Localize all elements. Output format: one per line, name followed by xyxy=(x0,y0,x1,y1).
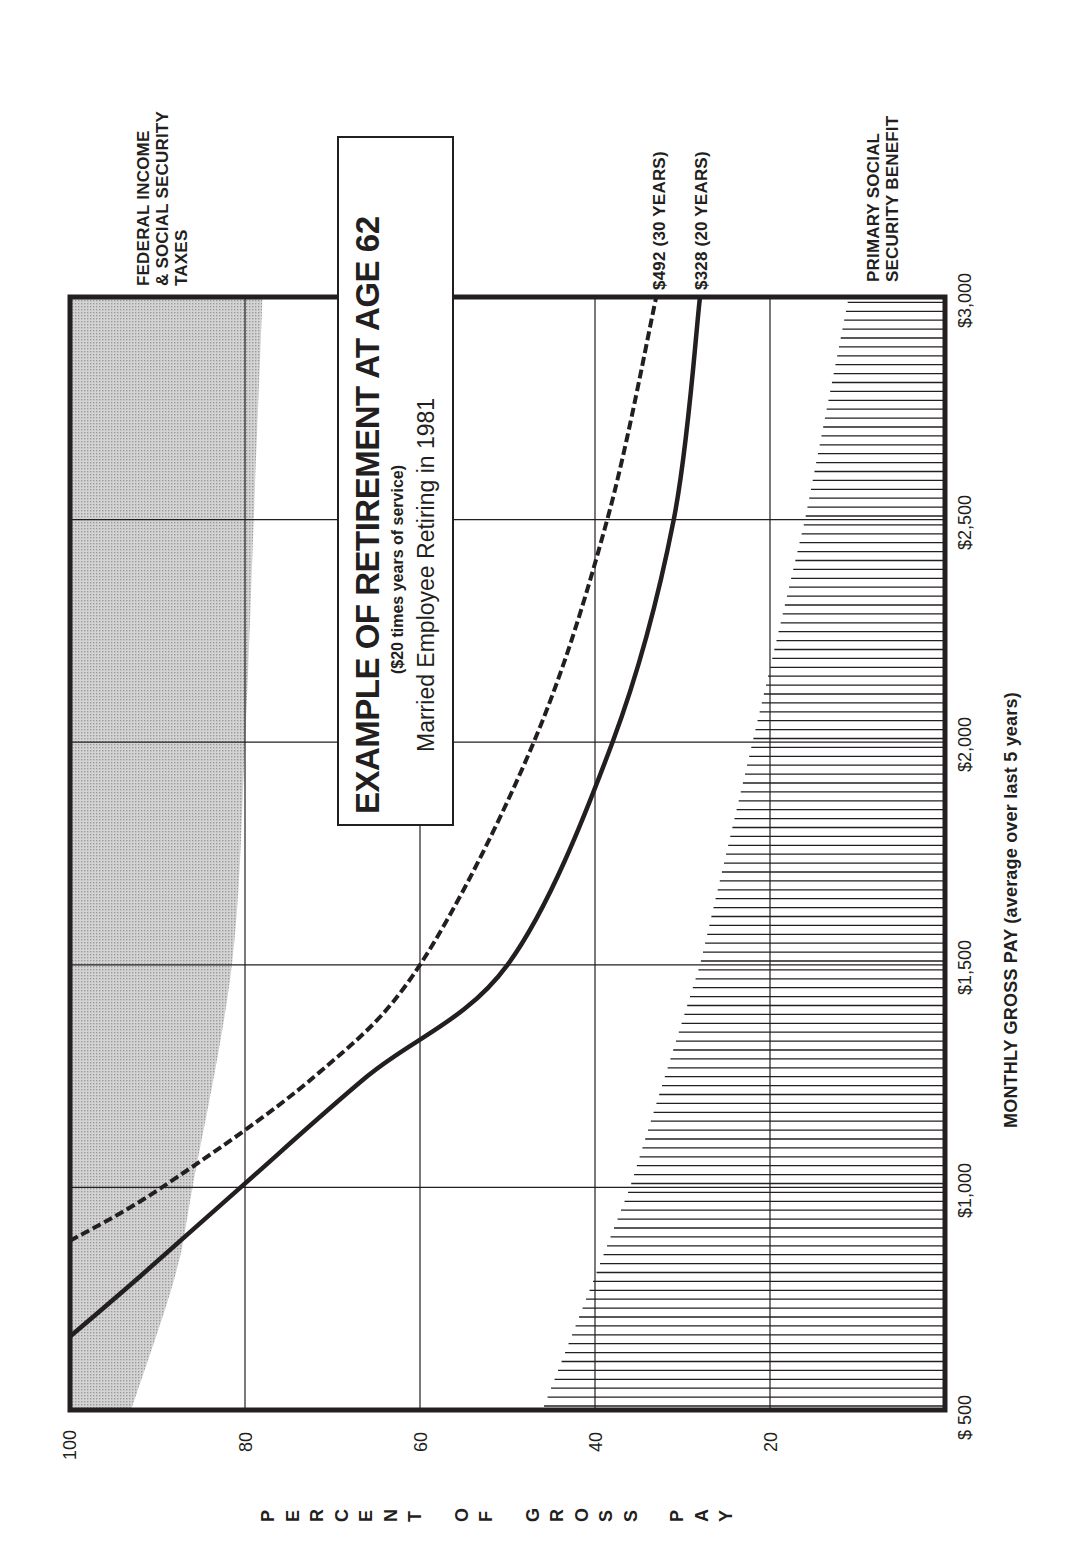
title-box: EXAMPLE OF RETIREMENT AT AGE 62 ($20 tim… xyxy=(337,136,454,826)
taxes-label-line3: TAXES xyxy=(172,111,191,286)
title-box-content: EXAMPLE OF RETIREMENT AT AGE 62 ($20 tim… xyxy=(349,154,440,814)
y-axis-title-letter: A xyxy=(692,1509,713,1522)
x-tick-1000: $1,000 xyxy=(955,1163,976,1218)
social-security-label-line2: SECURITY BENEFIT xyxy=(883,116,902,282)
y-axis-title-letter: S xyxy=(596,1510,617,1522)
y-axis-title-letter: N xyxy=(381,1509,402,1522)
x-tick-1500: $1,500 xyxy=(955,940,976,995)
social-security-label-line1: PRIMARY SOCIAL xyxy=(864,116,883,282)
y-axis-title-letter: Y xyxy=(716,1510,737,1522)
taxes-label-line2: & SOCIAL SECURITY xyxy=(153,111,172,286)
x-tick-3000: $3,000 xyxy=(955,273,976,328)
series-30-years-label: $492 (30 YEARS) xyxy=(650,151,669,290)
y-axis-title-letter: T xyxy=(405,1511,426,1522)
chart-title: EXAMPLE OF RETIREMENT AT AGE 62 xyxy=(349,154,387,814)
y-axis-title-letter: R xyxy=(307,1509,328,1522)
y-axis-title-letter: P xyxy=(667,1510,688,1522)
y-axis-title-letter: P xyxy=(258,1510,279,1522)
x-axis-title: MONTHLY GROSS PAY (average over last 5 y… xyxy=(1002,692,1021,1128)
y-tick-100: 100 xyxy=(60,1430,81,1460)
social-security-hatched-area xyxy=(544,302,945,1406)
taxes-label: FEDERAL INCOME & SOCIAL SECURITY TAXES xyxy=(134,111,191,286)
x-tick-500: $ 500 xyxy=(955,1395,976,1440)
y-axis-title-letter: G xyxy=(523,1508,544,1522)
y-tick-80: 80 xyxy=(236,1432,257,1452)
y-axis-title-letter: E xyxy=(283,1510,304,1522)
taxes-label-line1: FEDERAL INCOME xyxy=(134,111,153,286)
y-axis-title-letter: E xyxy=(356,1510,377,1522)
series-30-years-text: $492 (30 YEARS) xyxy=(650,151,669,290)
y-tick-60: 60 xyxy=(411,1432,432,1452)
chart-subtitle: ($20 times years of service) xyxy=(389,154,407,814)
y-axis-title-letter: O xyxy=(452,1508,473,1522)
series-20-years-text: $328 (20 YEARS) xyxy=(692,151,711,290)
y-axis-title-letter: R xyxy=(547,1509,568,1522)
series-20-years-label: $328 (20 YEARS) xyxy=(692,151,711,290)
x-tick-2500: $2,500 xyxy=(955,495,976,550)
y-axis-title-letter: S xyxy=(621,1510,642,1522)
y-axis-title-letter: C xyxy=(332,1509,353,1522)
y-tick-40: 40 xyxy=(586,1432,607,1452)
social-security-label: PRIMARY SOCIAL SECURITY BENEFIT xyxy=(864,116,902,282)
chart-caption: Married Employee Retiring in 1981 xyxy=(413,154,440,814)
y-axis-title-letter: O xyxy=(572,1508,593,1522)
x-tick-2000: $2,000 xyxy=(955,717,976,772)
y-tick-20: 20 xyxy=(761,1432,782,1452)
taxes-shaded-area xyxy=(70,297,263,1410)
y-axis-title-letter: F xyxy=(476,1511,497,1522)
